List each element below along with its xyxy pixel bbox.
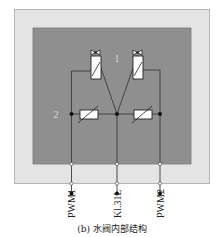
figure-caption: (b) 水阀内部结构: [0, 222, 224, 235]
water-valve-diagram: 1 2 PWM1 Kl.31L PWM2: [0, 0, 224, 237]
terminal-label-kl31l: Kl.31L: [112, 189, 123, 218]
terminal-label-pwm2: PWM2: [155, 189, 166, 218]
terminal-label-pwm1: PWM1: [66, 189, 77, 218]
callout-1: 1: [115, 53, 120, 64]
callout-2: 2: [54, 109, 59, 120]
inner-housing: [33, 28, 191, 164]
